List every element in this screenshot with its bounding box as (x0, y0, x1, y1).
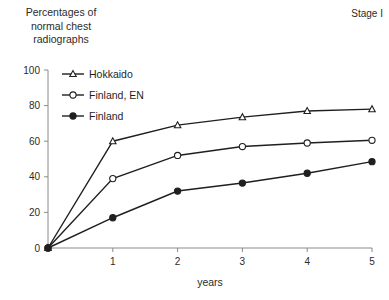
legend-marker-1 (70, 92, 76, 98)
legend-label-0: Hokkaido (89, 68, 133, 80)
x-tick-label: 4 (304, 256, 310, 267)
series-line-finland-en (48, 140, 372, 248)
series-line-finland (48, 162, 372, 248)
x-tick-label: 3 (240, 256, 246, 267)
y-tick-label: 40 (29, 171, 41, 182)
data-point-finland-0 (45, 245, 51, 251)
legend-label-2: Finland (89, 110, 124, 122)
data-point-finland-5 (369, 159, 375, 165)
x-tick-label: 1 (110, 256, 116, 267)
data-point-finland-en-1 (110, 175, 116, 181)
data-point-finland-1 (110, 215, 116, 221)
x-axis-title: years (197, 276, 223, 288)
data-point-finland-2 (175, 188, 181, 194)
y-tick-label: 60 (29, 136, 41, 147)
data-point-finland-4 (304, 170, 310, 176)
y-tick-label: 20 (29, 207, 41, 218)
data-point-finland-en-4 (304, 140, 310, 146)
y-tick-label: 100 (23, 65, 40, 76)
data-point-finland-en-3 (239, 143, 245, 149)
series-line-hokkaido (48, 109, 372, 248)
x-tick-label: 2 (175, 256, 181, 267)
y-tick-label: 0 (34, 243, 40, 254)
data-point-finland-3 (239, 180, 245, 186)
y-tick-label: 80 (29, 100, 41, 111)
data-point-finland-en-2 (175, 152, 181, 158)
x-tick-label: 5 (369, 256, 375, 267)
legend-marker-2 (70, 113, 76, 119)
legend-label-1: Finland, EN (89, 89, 144, 101)
chart-figure: Percentages of normal chest radiographs … (0, 0, 389, 300)
line-chart-plot: 02040608010012345yearsHokkaidoFinland, E… (0, 0, 389, 300)
data-point-finland-en-5 (369, 137, 375, 143)
